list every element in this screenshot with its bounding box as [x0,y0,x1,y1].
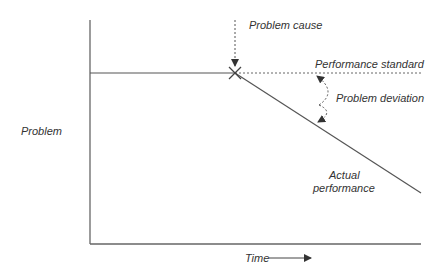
actual-performance-label-2: performance [312,182,375,194]
problem-deviation-arrow [317,76,328,105]
performance-standard-label: Performance standard [315,58,425,70]
x-axis-label: Time [245,252,269,264]
problem-cause-label: Problem cause [249,19,322,31]
axes [90,20,421,244]
problem-deviation-label: Problem deviation [336,92,424,104]
diagram-canvas: Problem cause Performance standard Probl… [0,0,442,277]
actual-performance-label-1: Actual [328,169,360,181]
y-axis-label: Problem [21,125,62,137]
